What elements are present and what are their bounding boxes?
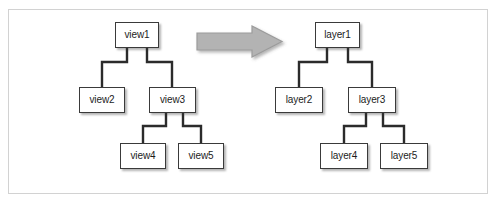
node-layer1[interactable]: layer1 <box>315 22 360 48</box>
edge-layer1-layer3 <box>348 48 372 87</box>
node-layer3-label: layer3 <box>359 95 386 105</box>
edge-layer1-layer2 <box>299 48 327 87</box>
node-layer4[interactable]: layer4 <box>320 143 368 169</box>
node-layer2[interactable]: layer2 <box>275 87 323 113</box>
edge-view1-view3 <box>147 48 172 87</box>
edge-layer3-layer5 <box>383 113 404 143</box>
node-view4-label: view4 <box>130 151 155 161</box>
node-view1-label: view1 <box>124 30 149 40</box>
node-view3-label: view3 <box>160 95 185 105</box>
node-layer3[interactable]: layer3 <box>348 87 396 113</box>
node-view2-label: view2 <box>89 95 114 105</box>
edge-view3-view5 <box>183 113 201 143</box>
node-layer1-label: layer1 <box>324 30 351 40</box>
edge-layer3-layer4 <box>344 113 366 143</box>
figure-container: view1 view2 view3 view4 view5 layer1 lay… <box>0 0 497 207</box>
arrow-right-icon <box>197 26 282 57</box>
node-layer4-label: layer4 <box>331 151 358 161</box>
node-view3[interactable]: view3 <box>149 87 196 113</box>
node-view5[interactable]: view5 <box>178 143 224 169</box>
node-view5-label: view5 <box>188 151 213 161</box>
node-view2[interactable]: view2 <box>79 87 125 113</box>
connector-layer <box>0 0 497 207</box>
node-layer5[interactable]: layer5 <box>380 143 428 169</box>
edge-view1-view2 <box>102 48 127 87</box>
node-view1[interactable]: view1 <box>115 22 159 48</box>
transform-arrow <box>197 26 282 57</box>
node-view4[interactable]: view4 <box>120 143 166 169</box>
edge-view3-view4 <box>143 113 166 143</box>
node-layer2-label: layer2 <box>286 95 313 105</box>
node-layer5-label: layer5 <box>391 151 418 161</box>
